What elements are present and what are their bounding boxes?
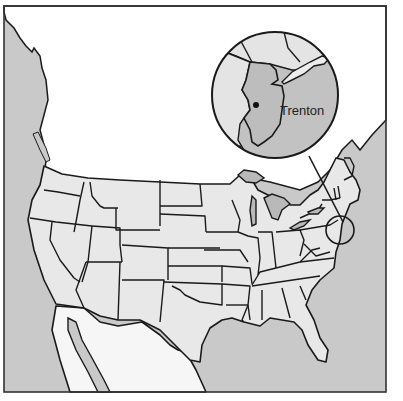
trenton-label: Trenton [280,103,324,118]
us-map: Trenton [0,0,403,401]
trenton-marker [253,102,259,108]
